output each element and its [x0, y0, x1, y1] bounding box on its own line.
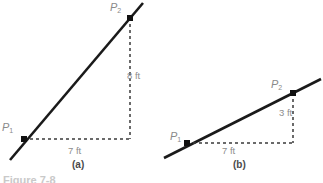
run-dimension-label-b: 7 ft — [222, 146, 235, 156]
point-label-p1-b: P1 — [170, 131, 181, 142]
slope-line-b — [164, 79, 321, 158]
rise-dimension-label-a: 8 ft — [127, 71, 140, 81]
point-marker-p2-a — [127, 15, 133, 21]
point-label-p2-a: P2 — [110, 2, 121, 13]
panel-b-graphic — [161, 0, 323, 183]
point-marker-p1-b — [184, 140, 190, 146]
figure-caption: Figure 7-8 — [3, 174, 56, 183]
panel-caption-b: (b) — [233, 159, 246, 170]
panel-caption-a: (a) — [72, 159, 84, 170]
point-marker-p2-b — [290, 90, 296, 96]
panel-b: P1 P2 3 ft 7 ft (b) — [161, 0, 323, 183]
panel-a: P1 P2 8 ft 7 ft (a) — [0, 0, 161, 183]
point-marker-p1-a — [21, 136, 27, 142]
run-dimension-label-a: 7 ft — [68, 146, 81, 156]
slope-line-a — [10, 3, 143, 160]
point-label-p2-b: P2 — [271, 79, 282, 90]
rise-dimension-label-b: 3 ft — [279, 108, 292, 118]
figure-7-8: P1 P2 8 ft 7 ft (a) P1 P2 3 ft 7 ft (b) … — [0, 0, 323, 183]
point-label-p1-a: P1 — [2, 122, 13, 133]
